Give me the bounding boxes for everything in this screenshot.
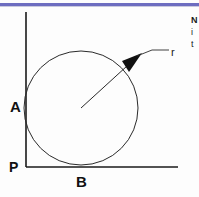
label-p: P: [9, 159, 18, 175]
label-a: A: [10, 98, 21, 115]
diagram-page: A P B r N i t: [0, 0, 199, 197]
radius-line: [81, 66, 127, 108]
side-text-line-1: N: [191, 14, 199, 26]
circle-tangent-figure: A P B r: [0, 0, 199, 197]
side-text-line-3: t: [191, 38, 199, 50]
radius-arrowhead-icon: [122, 53, 142, 72]
radius-leader-line: [137, 50, 169, 56]
label-r: r: [171, 46, 175, 58]
clipped-side-text: N i t: [191, 14, 199, 50]
side-text-line-2: i: [191, 26, 199, 38]
label-b: B: [76, 173, 87, 190]
